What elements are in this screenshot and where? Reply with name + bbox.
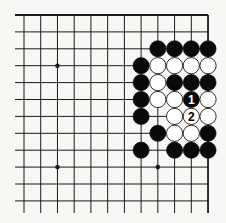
- black-stone: [200, 75, 216, 91]
- black-stone-move-1: 1: [183, 91, 199, 107]
- white-stone: [183, 58, 199, 74]
- move-number: 1: [188, 93, 195, 107]
- white-stone: [200, 91, 216, 107]
- star-point: [55, 63, 60, 68]
- black-stone: [133, 108, 149, 124]
- stones-layer: 12: [133, 41, 216, 159]
- black-stone: [133, 75, 149, 91]
- white-stone: [166, 58, 182, 74]
- white-stone: [166, 91, 182, 107]
- black-stone: [183, 41, 199, 57]
- white-stone: [150, 91, 166, 107]
- white-stone-move-2: 2: [183, 108, 199, 124]
- black-stone: [183, 142, 199, 158]
- black-stone: [150, 125, 166, 141]
- move-number: 2: [188, 110, 195, 124]
- black-stone: [183, 75, 199, 91]
- black-stone: [133, 142, 149, 158]
- white-stone: [183, 125, 199, 141]
- star-point: [156, 165, 161, 170]
- white-stone: [200, 58, 216, 74]
- white-stone: [166, 108, 182, 124]
- white-stone: [200, 108, 216, 124]
- star-point: [55, 165, 60, 170]
- black-stone: [166, 142, 182, 158]
- white-stone: [150, 58, 166, 74]
- black-stone: [133, 58, 149, 74]
- black-stone: [200, 125, 216, 141]
- black-stone: [200, 142, 216, 158]
- black-stone: [166, 41, 182, 57]
- black-stone: [200, 41, 216, 57]
- black-stone: [133, 91, 149, 107]
- black-stone: [166, 75, 182, 91]
- go-board: 12: [0, 0, 226, 223]
- black-stone: [150, 41, 166, 57]
- white-stone: [150, 75, 166, 91]
- white-stone: [166, 125, 182, 141]
